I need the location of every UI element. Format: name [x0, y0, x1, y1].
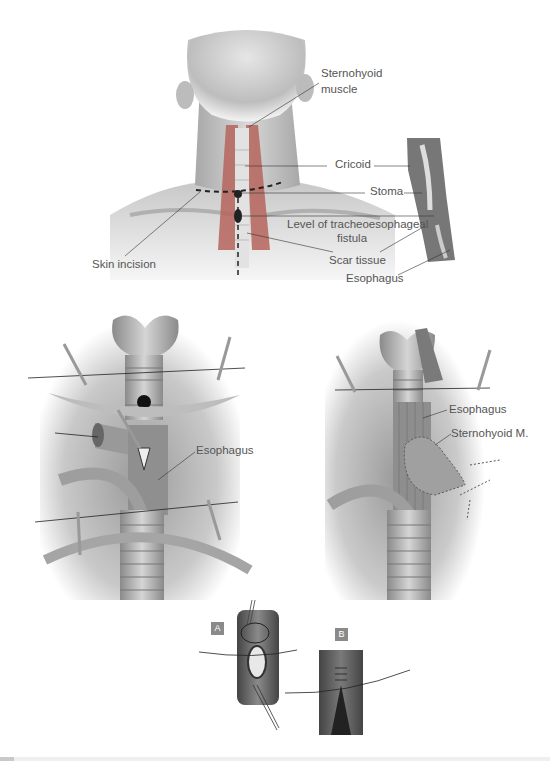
tracheal-resection-drawing — [0, 280, 275, 600]
label-tef-line1: Level of tracheoesophageal — [287, 218, 428, 231]
label-esophagus-left: Esophagus — [196, 444, 254, 457]
muscle-flap-repair-drawing — [275, 280, 550, 600]
inset-tag-b: B — [335, 628, 348, 641]
label-sternohyoid-m: Sternohyoid M. — [451, 427, 528, 440]
label-cricoid: Cricoid — [335, 158, 371, 171]
inset-b-sutured-closure-drawing — [285, 600, 425, 735]
label-esophagus-right: Esophagus — [449, 403, 507, 416]
page-footer-bar — [0, 757, 550, 761]
label-tef-line2: fistula — [337, 232, 367, 245]
label-sternohyoid-line2: muscle — [321, 83, 357, 96]
page-footer-marker — [0, 757, 14, 761]
label-sternohyoid-line1: Sternohyoid — [321, 67, 382, 80]
neck-anatomy-drawing — [0, 0, 550, 280]
label-scar-tissue: Scar tissue — [329, 254, 386, 267]
label-stoma: Stoma — [370, 185, 403, 198]
surgical-view-right: Esophagus Sternohyoid M. — [275, 280, 550, 600]
neck-anatomy-illustration: Sternohyoid muscle Cricoid Stoma Level o… — [0, 0, 550, 280]
inset-b: B — [285, 600, 425, 735]
inset-tag-a: A — [211, 622, 224, 635]
label-skin-incision: Skin incision — [92, 258, 156, 271]
surgical-view-left: Esophagus — [0, 280, 275, 600]
